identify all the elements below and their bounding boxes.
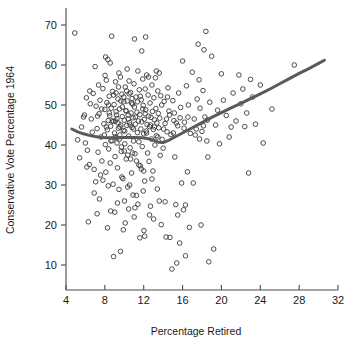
- y-tick-label: 30: [45, 179, 57, 191]
- y-tick-label: 10: [45, 259, 57, 271]
- y-tick-label: 40: [45, 139, 57, 151]
- y-axis-title: Conservative Vote Percentage 1964: [4, 66, 16, 234]
- x-tick-label: 28: [293, 294, 305, 306]
- plot-canvas: 48121620242832 10203040506070 Percentage…: [0, 0, 352, 345]
- scatter-plot-figure: 48121620242832 10203040506070 Percentage…: [0, 0, 352, 345]
- x-axis-title: Percentage Retired: [151, 325, 242, 337]
- y-tick-label: 20: [45, 219, 57, 231]
- x-tick-label: 8: [102, 294, 108, 306]
- y-tick-label: 50: [45, 99, 57, 111]
- x-tick-label: 20: [215, 294, 227, 306]
- x-tick-label: 4: [63, 294, 69, 306]
- x-tick-label: 24: [254, 294, 266, 306]
- x-tick-label: 32: [332, 294, 344, 306]
- x-tick-label: 12: [138, 294, 150, 306]
- y-tick-label: 60: [45, 59, 57, 71]
- x-tick-label: 16: [176, 294, 188, 306]
- y-tick-label: 70: [45, 19, 57, 31]
